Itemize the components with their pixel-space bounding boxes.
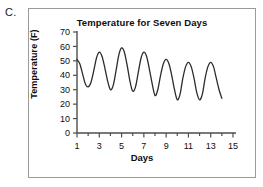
x-axis-ticks: 13579111315: [74, 133, 238, 151]
x-tick-label: 1: [74, 141, 79, 151]
chart-frame: Temperature for Seven Days Temperature (…: [28, 8, 256, 178]
temperature-series-line: [77, 48, 222, 100]
choice-letter-label: C.: [5, 6, 17, 18]
y-tick-label: 30: [60, 85, 70, 95]
x-tick-label: 13: [206, 141, 216, 151]
y-tick-label: 70: [60, 27, 70, 37]
y-tick-label: 50: [60, 56, 70, 66]
x-tick-label: 9: [164, 141, 169, 151]
y-tick-label: 10: [60, 114, 70, 124]
x-tick-label: 11: [184, 141, 193, 151]
y-tick-label: 20: [60, 99, 70, 109]
y-axis-ticks: 010203040506070: [60, 27, 77, 138]
y-tick-label: 0: [65, 128, 70, 138]
line-chart-plot: 010203040506070 13579111315: [29, 9, 255, 177]
y-tick-label: 40: [60, 70, 70, 80]
question-choice-panel: C. Temperature for Seven Days Temperatur…: [0, 0, 263, 187]
x-tick-label: 15: [228, 141, 238, 151]
x-tick-label: 7: [141, 141, 146, 151]
x-tick-label: 5: [119, 141, 124, 151]
y-tick-label: 60: [60, 42, 70, 52]
x-tick-label: 3: [97, 141, 102, 151]
